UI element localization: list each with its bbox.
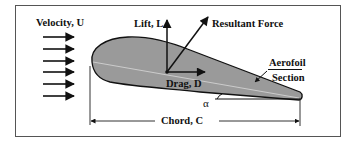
resultant-force-label: Resultant Force: [212, 19, 283, 30]
flow-arrows: [43, 37, 74, 96]
drag-label: Drag, D: [166, 79, 202, 90]
aerofoil-label: Aerofoil: [269, 58, 306, 69]
lift-label: Lift, L: [134, 19, 163, 30]
section-label: Section: [272, 73, 305, 84]
chord-label: Chord, C: [161, 116, 203, 127]
angle-of-attack-label: α: [203, 98, 209, 109]
angle-arc: [217, 94, 222, 99]
velocity-label: Velocity, U: [36, 18, 84, 29]
aerofoil-diagram: Velocity, U Lift, L Resultant Force Drag…: [0, 0, 351, 142]
